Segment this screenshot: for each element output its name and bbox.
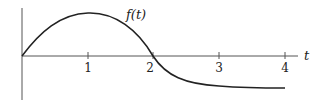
x-axis-label: t — [304, 48, 310, 63]
function-label: f(t) — [125, 7, 146, 22]
tick-label-3: 3 — [215, 61, 223, 75]
tick-label-1: 1 — [84, 61, 92, 75]
function-plot: 1 2 3 4 t f(t) — [0, 0, 322, 103]
tick-label-4: 4 — [281, 61, 289, 75]
function-curve — [22, 13, 285, 88]
tick-label-2: 2 — [146, 61, 154, 75]
